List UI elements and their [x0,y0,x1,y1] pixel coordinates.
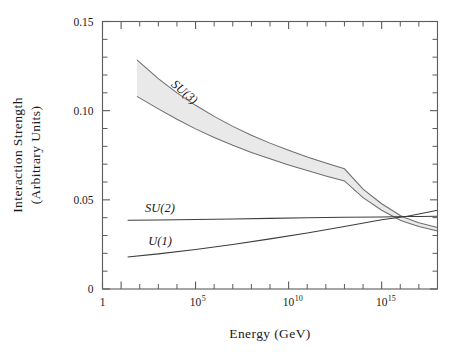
figure-container: 110510101015 00.050.100.15 SU(3)SU(2)U(1… [0,0,456,352]
x-tick-mantissa: 1 [100,296,106,308]
x-tick-mantissa: 10 [283,296,295,308]
y-axis-title-line2: (Arbitrary Units) [28,106,43,205]
y-axis-title-line1: Interaction Strength [10,97,25,213]
coupling-unification-chart: 110510101015 00.050.100.15 SU(3)SU(2)U(1… [0,0,456,352]
x-tick-exponent: 5 [202,294,206,303]
y-tick-label: 0 [88,283,94,295]
x-tick-exponent: 15 [388,294,396,303]
x-tick-mantissa: 10 [190,296,202,308]
y-tick-label: 0.05 [73,194,93,206]
curve-label-su2: SU(2) [145,201,175,215]
x-tick-exponent: 10 [295,294,303,303]
y-tick-label: 0.10 [73,105,93,117]
x-tick-label: 1 [100,296,106,308]
x-tick-mantissa: 10 [376,296,388,308]
curve-label-u1: U(1) [148,234,172,248]
y-tick-label: 0.15 [73,16,93,28]
x-axis-title: Energy (GeV) [229,326,310,341]
